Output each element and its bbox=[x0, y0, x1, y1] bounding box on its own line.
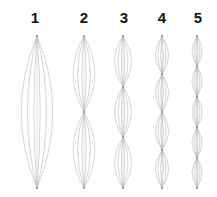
lens-strand bbox=[84, 36, 95, 112]
pinch-node bbox=[83, 111, 85, 113]
lens-strand bbox=[121, 137, 123, 188]
lens-strand bbox=[37, 36, 40, 188]
lens-strand bbox=[155, 74, 162, 112]
pinch-node bbox=[161, 73, 163, 75]
lens-strand bbox=[82, 112, 84, 188]
lens-strand bbox=[73, 112, 84, 188]
lens-strand bbox=[123, 87, 131, 138]
pinch-node bbox=[161, 35, 163, 37]
pinch-node bbox=[122, 187, 124, 189]
lens-strand bbox=[123, 87, 125, 138]
lens-strand bbox=[21, 36, 37, 188]
lens-strand bbox=[84, 112, 95, 188]
pinch-node bbox=[196, 187, 198, 189]
lens-strands-graphic bbox=[0, 0, 217, 197]
lens-strand bbox=[73, 36, 84, 112]
pinch-node bbox=[36, 35, 38, 37]
lens-column-5 bbox=[192, 35, 202, 189]
pinch-node bbox=[196, 157, 198, 159]
lens-strand bbox=[123, 36, 131, 87]
lens-strand bbox=[155, 112, 162, 150]
lens-strand bbox=[162, 36, 169, 74]
lens-strand bbox=[162, 74, 169, 112]
lens-strand bbox=[34, 36, 37, 188]
lens-strand bbox=[123, 36, 125, 87]
lens-strand bbox=[115, 36, 123, 87]
lens-strand bbox=[155, 36, 162, 74]
pinch-node bbox=[161, 111, 163, 113]
pinch-node bbox=[83, 187, 85, 189]
lens-strand bbox=[115, 87, 123, 138]
lens-strand bbox=[115, 137, 123, 188]
lens-strand bbox=[84, 112, 86, 188]
lens-column-2 bbox=[73, 35, 95, 189]
lens-column-1 bbox=[21, 35, 53, 189]
lens-column-4 bbox=[155, 35, 168, 189]
lens-strand bbox=[155, 150, 162, 188]
lens-strand bbox=[123, 137, 125, 188]
lens-strand bbox=[82, 36, 84, 112]
pinch-node bbox=[36, 187, 38, 189]
lens-strand bbox=[123, 137, 131, 188]
pinch-node bbox=[122, 136, 124, 138]
pinch-node bbox=[196, 35, 198, 37]
pinch-node bbox=[122, 86, 124, 88]
pinch-node bbox=[196, 96, 198, 98]
pinch-node bbox=[196, 126, 198, 128]
lens-strand bbox=[162, 112, 169, 150]
lens-strand bbox=[121, 87, 123, 138]
pinch-node bbox=[122, 35, 124, 37]
pinch-node bbox=[196, 65, 198, 67]
lens-strand bbox=[121, 36, 123, 87]
pinch-node bbox=[161, 149, 163, 151]
lens-strand bbox=[84, 36, 86, 112]
lens-strand bbox=[162, 150, 169, 188]
pinch-node bbox=[83, 35, 85, 37]
lens-strand bbox=[37, 36, 53, 188]
lens-column-3 bbox=[115, 35, 132, 189]
pinch-node bbox=[161, 187, 163, 189]
lens-chain-diagram: 1 2 3 4 5 bbox=[0, 0, 217, 197]
